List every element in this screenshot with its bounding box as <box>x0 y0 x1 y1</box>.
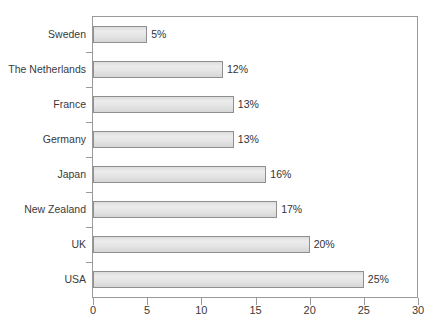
bar-chart: SwedenThe NetherlandsFranceGermanyJapanN… <box>0 0 438 329</box>
y-axis-category-labels: SwedenThe NetherlandsFranceGermanyJapanN… <box>0 17 89 297</box>
bar-value-label: 5% <box>151 29 166 40</box>
bar-row: 13% <box>93 87 418 122</box>
y-axis-category-label: Japan <box>57 169 86 180</box>
y-axis-category-label: USA <box>64 274 86 285</box>
bar <box>93 26 147 43</box>
y-axis-category-label: New Zealand <box>24 204 86 215</box>
y-axis-label-cell: New Zealand <box>0 192 89 227</box>
y-axis-label-cell: Sweden <box>0 17 89 52</box>
bar-value-label: 17% <box>281 204 302 215</box>
bar <box>93 61 223 78</box>
bar <box>93 131 234 148</box>
x-axis-tick-label: 30 <box>412 305 424 316</box>
x-axis-tick-label: 15 <box>249 305 261 316</box>
bar <box>93 96 234 113</box>
bar-value-label: 20% <box>314 239 335 250</box>
y-axis-category-label: Sweden <box>48 29 86 40</box>
y-axis-label-cell: UK <box>0 227 89 262</box>
y-axis-tick <box>86 157 93 158</box>
bar <box>93 236 310 253</box>
y-axis-tick <box>86 262 93 263</box>
bar-value-label: 13% <box>238 99 259 110</box>
y-axis-tick <box>86 87 93 88</box>
y-axis-category-label: France <box>53 99 86 110</box>
y-axis-label-cell: USA <box>0 262 89 297</box>
bar-row: 13% <box>93 122 418 157</box>
y-axis-ticks <box>86 17 93 297</box>
y-axis-label-cell: Germany <box>0 122 89 157</box>
y-axis-label-cell: Japan <box>0 157 89 192</box>
y-axis-category-label: Germany <box>43 134 86 145</box>
bar-row: 17% <box>93 192 418 227</box>
y-axis-tick <box>86 122 93 123</box>
y-axis-category-label: The Netherlands <box>8 64 86 75</box>
y-axis-label-cell: The Netherlands <box>0 52 89 87</box>
bar-row: 20% <box>93 227 418 262</box>
x-axis-tick-labels: 051015202530 <box>93 305 418 323</box>
y-axis-category-label: UK <box>71 239 86 250</box>
bar-value-label: 16% <box>270 169 291 180</box>
bar-row: 16% <box>93 157 418 192</box>
bar-value-label: 13% <box>238 134 259 145</box>
y-axis-tick <box>86 227 93 228</box>
bar-row: 25% <box>93 262 418 297</box>
bar <box>93 201 277 218</box>
bar <box>93 271 364 288</box>
bar-row: 5% <box>93 17 418 52</box>
x-axis-tick-label: 10 <box>195 305 207 316</box>
x-axis-tick-label: 25 <box>358 305 370 316</box>
y-axis-label-cell: France <box>0 87 89 122</box>
y-axis-tick <box>86 52 93 53</box>
bar-row: 12% <box>93 52 418 87</box>
x-axis-tick-label: 0 <box>90 305 96 316</box>
y-axis-tick <box>86 192 93 193</box>
bar-value-label: 25% <box>368 274 389 285</box>
bar <box>93 166 266 183</box>
x-axis-tick-label: 20 <box>304 305 316 316</box>
bar-value-label: 12% <box>227 64 248 75</box>
bars-container: 5%12%13%13%16%17%20%25% <box>93 17 418 297</box>
x-axis-tick-label: 5 <box>144 305 150 316</box>
